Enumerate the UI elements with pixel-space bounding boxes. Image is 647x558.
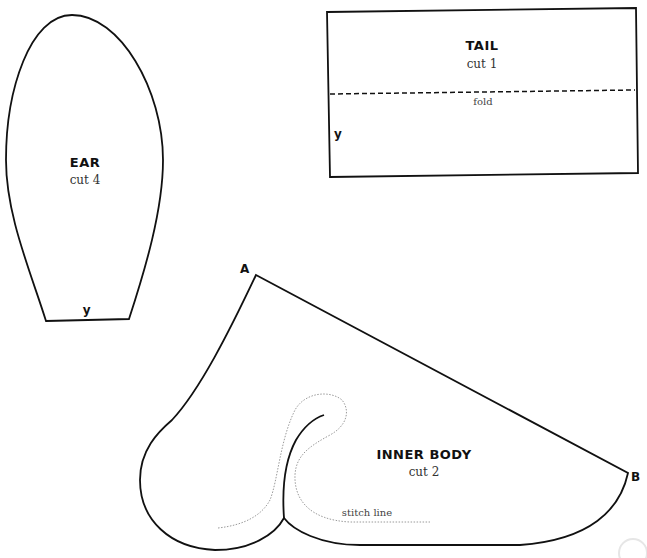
watermark-mark <box>619 539 647 558</box>
inner-body-title: INNER BODY <box>376 447 471 462</box>
ear-cut: cut 4 <box>70 173 101 187</box>
pattern-drawing <box>0 0 647 558</box>
stitch-line-label: stitch line <box>342 507 392 518</box>
tail-mark-y: y <box>334 127 342 141</box>
inner-body-cut: cut 2 <box>409 465 440 479</box>
tail-cut: cut 1 <box>467 57 498 71</box>
tail-fold-label: fold <box>473 96 492 107</box>
point-a-label: A <box>240 262 249 276</box>
tail-title: TAIL <box>465 38 498 53</box>
point-b-label: B <box>631 470 640 484</box>
tail-fold-line <box>330 90 635 94</box>
pattern-sheet: EAR cut 4 y TAIL cut 1 fold y A B INNER … <box>0 0 647 558</box>
ear-mark-y: y <box>83 303 91 317</box>
ear-title: EAR <box>70 155 100 170</box>
inner-body-dart <box>283 415 324 518</box>
